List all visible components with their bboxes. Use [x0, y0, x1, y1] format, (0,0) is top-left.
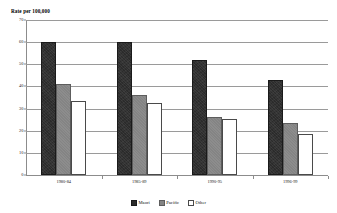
bar[interactable] — [192, 60, 207, 175]
bar[interactable] — [222, 119, 237, 175]
bar[interactable] — [117, 42, 132, 175]
plot-area: 0102030405060701980-841985-891990-951996… — [26, 20, 328, 176]
y-tick-mark — [24, 20, 26, 21]
bar-group — [117, 20, 162, 175]
y-tick-mark — [24, 108, 26, 109]
legend-item[interactable]: Pacific — [159, 200, 179, 206]
bar[interactable] — [268, 80, 283, 175]
y-tick-mark — [24, 175, 26, 176]
bar-group — [41, 20, 86, 175]
y-axis-title: Rate per 100,000 — [11, 9, 50, 14]
y-tick-label: 10 — [19, 151, 23, 155]
legend-item[interactable]: Māori — [131, 200, 150, 206]
legend-swatch-icon — [131, 200, 137, 206]
x-tick-mark — [253, 176, 254, 179]
y-tick-label: 40 — [19, 84, 23, 88]
legend-swatch-icon — [188, 200, 194, 206]
bar[interactable] — [298, 134, 313, 175]
y-tick-mark — [24, 64, 26, 65]
legend-item[interactable]: Other — [188, 200, 206, 206]
y-tick-mark — [24, 130, 26, 131]
bar[interactable] — [207, 117, 222, 175]
bar[interactable] — [132, 95, 147, 175]
bar[interactable] — [283, 123, 298, 175]
bar[interactable] — [71, 101, 86, 175]
bar[interactable] — [41, 42, 56, 175]
legend-label: Other — [196, 201, 206, 206]
legend-swatch-icon — [159, 200, 165, 206]
x-tick-mark — [328, 176, 329, 179]
chart-legend: MāoriPacificOther — [0, 200, 337, 206]
bar-group — [192, 20, 237, 175]
y-tick-mark — [24, 152, 26, 153]
x-tick-mark — [177, 176, 178, 179]
y-tick-label: 30 — [19, 106, 23, 110]
y-tick-label: 0 — [21, 173, 23, 177]
y-tick-label: 50 — [19, 62, 23, 66]
y-tick-label: 20 — [19, 129, 23, 133]
bar[interactable] — [56, 84, 71, 175]
y-tick-label: 70 — [19, 18, 23, 22]
x-tick-label: 1990-95 — [207, 180, 222, 184]
legend-label: Māori — [139, 201, 150, 206]
x-tick-label: 1996-99 — [283, 180, 298, 184]
y-tick-mark — [24, 42, 26, 43]
x-tick-mark — [102, 176, 103, 179]
y-tick-label: 60 — [19, 40, 23, 44]
x-tick-label: 1980-84 — [56, 180, 71, 184]
bar-chart: Rate per 100,000 0102030405060701980-841… — [0, 0, 337, 213]
y-tick-mark — [24, 86, 26, 87]
x-tick-label: 1985-89 — [132, 180, 147, 184]
bar[interactable] — [147, 103, 162, 175]
legend-label: Pacific — [166, 201, 179, 206]
bar-group — [268, 20, 313, 175]
